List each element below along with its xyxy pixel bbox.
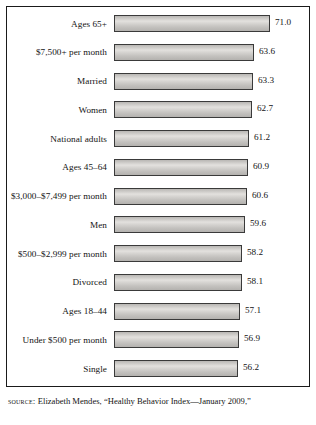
bar-row: Ages 45–6460.9	[7, 158, 309, 178]
bar	[114, 44, 254, 61]
bar-value-label: 63.6	[259, 46, 275, 57]
bar-row: Ages 18–4457.1	[7, 302, 309, 322]
bar-value-label: 56.9	[244, 333, 260, 344]
source-note: source: Elizabeth Mendes, “Healthy Behav…	[8, 396, 308, 407]
bar-track: 60.9	[114, 158, 309, 178]
bar-track: 60.6	[114, 187, 309, 207]
bar-row: $3,000–$7,499 per month60.6	[7, 187, 309, 207]
bar	[114, 274, 242, 291]
bar-row: $500–$2,999 per month58.2	[7, 244, 309, 264]
bar-track: 57.1	[114, 302, 309, 322]
bar-row: Women62.7	[7, 100, 309, 120]
bar-track: 63.6	[114, 43, 309, 63]
chart-page: Ages 65+71.0$7,500+ per month63.6Married…	[0, 0, 316, 425]
bar-row: National adults61.2	[7, 129, 309, 149]
bar	[114, 15, 270, 32]
bar-value-label: 60.9	[253, 161, 269, 172]
bar-track: 61.2	[114, 129, 309, 149]
bar-category-label: Women	[7, 105, 114, 116]
bar-row: Married63.3	[7, 72, 309, 92]
bar-row: $7,500+ per month63.6	[7, 43, 309, 63]
bar	[114, 130, 249, 147]
bar-value-label: 61.2	[254, 132, 270, 143]
bar-row: Under $500 per month56.9	[7, 330, 309, 350]
bar-category-label: $500–$2,999 per month	[7, 249, 114, 260]
bar	[114, 73, 253, 90]
bar-category-label: Divorced	[7, 277, 114, 288]
bar	[114, 331, 239, 348]
bar-row: Single56.2	[7, 359, 309, 379]
bar-category-label: Ages 18–44	[7, 306, 114, 317]
bar-value-label: 63.3	[258, 75, 274, 86]
bar-value-label: 71.0	[275, 17, 291, 28]
bar-value-label: 58.1	[247, 276, 263, 287]
bar-category-label: Single	[7, 364, 114, 375]
bar-category-label: Under $500 per month	[7, 335, 114, 346]
bar-track: 56.2	[114, 359, 309, 379]
bar-value-label: 58.2	[247, 247, 263, 258]
bar	[114, 159, 248, 176]
bar	[114, 216, 245, 233]
bar-row: Ages 65+71.0	[7, 14, 309, 34]
bar	[114, 303, 240, 320]
bar-track: 63.3	[114, 72, 309, 92]
source-text: Elizabeth Mendes, “Healthy Behavior Inde…	[36, 396, 251, 406]
bar-value-label: 59.6	[250, 218, 266, 229]
bar-value-label: 62.7	[257, 103, 273, 114]
bar-category-label: National adults	[7, 134, 114, 145]
bar-track: 62.7	[114, 100, 309, 120]
bar-category-label: Married	[7, 76, 114, 87]
bar	[114, 188, 247, 205]
bar-track: 58.1	[114, 273, 309, 293]
bar-rows: Ages 65+71.0$7,500+ per month63.6Married…	[7, 7, 309, 386]
bar-row: Divorced58.1	[7, 273, 309, 293]
bar	[114, 245, 242, 262]
bar-track: 58.2	[114, 244, 309, 264]
bar-track: 56.9	[114, 330, 309, 350]
bar	[114, 101, 252, 118]
bar-category-label: Ages 65+	[7, 19, 114, 30]
bar	[114, 360, 238, 377]
bar-track: 71.0	[114, 14, 309, 34]
source-label: source:	[8, 396, 36, 406]
bar-value-label: 56.2	[243, 362, 259, 373]
bar-value-label: 60.6	[252, 190, 268, 201]
bar-row: Men59.6	[7, 215, 309, 235]
bar-chart: Ages 65+71.0$7,500+ per month63.6Married…	[6, 6, 310, 387]
bar-track: 59.6	[114, 215, 309, 235]
bar-value-label: 57.1	[245, 305, 261, 316]
bar-category-label: Men	[7, 220, 114, 231]
bar-category-label: $3,000–$7,499 per month	[7, 191, 114, 202]
bar-category-label: $7,500+ per month	[7, 47, 114, 58]
bar-category-label: Ages 45–64	[7, 162, 114, 173]
